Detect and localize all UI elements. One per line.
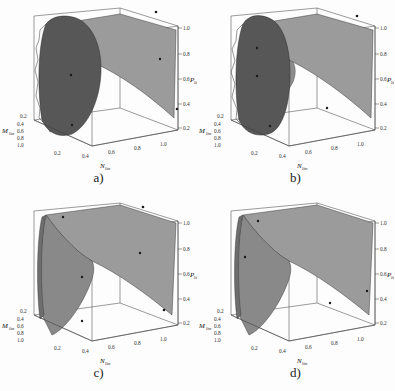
y-axis-label: M [198,127,206,135]
z-axis-label-subscript: lim [391,80,394,85]
x-tick: 0.2 [251,150,258,156]
y-axis-c: 0.2 0.4 0.6 0.8 1.0 M lim [1,308,27,343]
y-tick: 0.6 [17,128,24,134]
z-tick: 0.8 [380,246,387,252]
y-tick: 1.0 [17,142,24,148]
y-tick: 1.0 [214,337,221,343]
z-tick: 0.4 [183,101,190,107]
y-tick: 0.8 [214,135,221,141]
x-tick: 1.0 [160,141,167,147]
y-axis-label: M [198,322,206,330]
y-tick: 0.4 [17,121,24,127]
z-tick: 0.2 [380,320,387,326]
z-tick: 0.6 [183,76,190,82]
z-tick: 1.0 [380,25,387,31]
x-tick: 0.2 [251,345,258,351]
plot-d: 1.0 0.8 0.6 0.4 0.2 P lim 0.2 0.4 0.6 0.… [197,195,394,367]
y-tick: 0.4 [17,316,24,322]
y-tick: 0.4 [214,316,221,322]
y-axis-label-subscript: lim [9,131,14,136]
x-tick: 0.2 [54,150,61,156]
z-axis-c: 1.0 0.8 0.6 0.4 0.2 P lim [178,220,197,326]
y-axis-label-subscript: lim [9,326,14,331]
y-tick: 1.0 [17,337,24,343]
plot-c: 1.0 0.8 0.6 0.4 0.2 P lim 0.2 0.4 0.6 0.… [0,195,197,367]
z-tick: 0.2 [183,125,190,131]
y-tick: 0.2 [20,113,27,119]
z-tick: 0.6 [183,271,190,277]
y-tick: 0.8 [17,330,24,336]
z-axis-label-subscript: lim [391,275,394,280]
y-tick: 1.0 [214,142,221,148]
y-tick: 0.6 [214,323,221,329]
z-axis-d: 1.0 0.8 0.6 0.4 0.2 P lim [375,220,394,326]
y-tick: 0.6 [214,128,221,134]
y-axis-d: 0.2 0.4 0.6 0.8 1.0 M lim [198,308,224,343]
z-tick: 1.0 [183,220,190,226]
x-tick: 1.0 [160,336,167,342]
y-tick: 0.2 [20,308,27,314]
figure-four-3d-panels: 1.0 0.8 0.6 0.4 0.2 P lim 0.2 0.4 0.6 0.… [0,0,395,391]
x-tick: 1.0 [357,141,364,147]
y-axis-label-subscript: lim [206,131,211,136]
x-tick: 0.4 [82,153,89,159]
y-axis-label: M [1,127,9,135]
y-axis-b: 0.2 0.4 0.6 0.8 1.0 M lim [198,113,224,148]
plot-b: 1.0 0.8 0.6 0.4 0.2 P lim 0.2 0.4 0.6 0.… [197,0,394,172]
x-tick: 0.8 [331,340,338,346]
x-tick: 0.8 [134,145,141,151]
z-tick: 0.6 [380,76,387,82]
x-tick: 0.6 [108,149,115,155]
panel-label-c: c) [0,365,197,381]
y-tick: 0.6 [17,323,24,329]
inner-surface-b [236,16,290,136]
z-tick: 0.6 [380,271,387,277]
y-tick: 0.4 [214,121,221,127]
z-tick: 1.0 [380,220,387,226]
z-tick: 0.8 [380,51,387,57]
z-tick: 0.2 [380,125,387,131]
x-tick: 0.6 [305,149,312,155]
z-tick: 0.8 [183,51,190,57]
z-axis-b: 1.0 0.8 0.6 0.4 0.2 P lim [375,25,394,131]
x-tick: 0.6 [305,344,312,350]
y-axis-label: M [1,322,9,330]
panel-label-b: b) [197,170,394,186]
y-tick: 0.2 [217,308,224,314]
panel-c: 1.0 0.8 0.6 0.4 0.2 P lim 0.2 0.4 0.6 0.… [0,195,197,390]
y-tick: 0.8 [17,135,24,141]
x-tick: 0.4 [82,348,89,354]
x-tick: 0.8 [134,340,141,346]
x-tick: 0.8 [331,145,338,151]
plot-a: 1.0 0.8 0.6 0.4 0.2 P lim 0.2 0.4 0.6 0.… [0,0,197,172]
z-tick: 1.0 [183,25,190,31]
y-tick: 0.8 [214,330,221,336]
x-tick: 0.2 [54,345,61,351]
z-tick: 0.4 [380,296,387,302]
z-tick: 0.2 [183,320,190,326]
z-tick: 0.4 [183,296,190,302]
x-tick: 0.4 [279,153,286,159]
x-tick: 0.6 [108,344,115,350]
z-tick: 0.8 [183,246,190,252]
panel-a: 1.0 0.8 0.6 0.4 0.2 P lim 0.2 0.4 0.6 0.… [0,0,197,195]
panel-label-a: a) [0,170,197,186]
y-tick: 0.2 [217,113,224,119]
y-axis-label-subscript: lim [206,326,211,331]
panel-label-d: d) [197,365,394,381]
panel-d: 1.0 0.8 0.6 0.4 0.2 P lim 0.2 0.4 0.6 0.… [197,195,394,390]
panel-b: 1.0 0.8 0.6 0.4 0.2 P lim 0.2 0.4 0.6 0.… [197,0,394,195]
z-tick: 0.4 [380,101,387,107]
x-tick: 0.4 [279,348,286,354]
x-tick: 1.0 [357,336,364,342]
z-axis-a: 1.0 0.8 0.6 0.4 0.2 P lim [178,25,197,131]
